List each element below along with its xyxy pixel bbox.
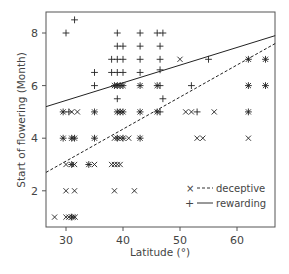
y-tick-label: 4 — [31, 132, 38, 145]
legend-rewarding-marker: + — [185, 197, 194, 210]
legend-rewarding-label: rewarding — [216, 198, 266, 209]
rewarding-point-plus-icon — [91, 82, 98, 89]
deceptive-point-x-icon — [212, 109, 217, 114]
deceptive-point-x-icon — [75, 109, 80, 114]
deceptive-point-x-icon — [200, 136, 205, 141]
deceptive-point-x-icon — [246, 136, 251, 141]
rewarding-point-plus-icon — [120, 56, 127, 63]
deceptive-point-x-icon — [92, 162, 97, 167]
deceptive-point-x-icon — [126, 136, 131, 141]
rewarding-point-plus-icon — [157, 56, 164, 63]
deceptive-point-x-icon — [52, 215, 57, 220]
rewarding-point-plus-icon — [188, 82, 195, 89]
rewarding-point-plus-icon — [114, 30, 121, 37]
rewarding-point-plus-icon — [160, 30, 167, 37]
rewarding-point-plus-icon — [157, 109, 164, 116]
deceptive-point-x-icon — [109, 162, 114, 167]
x-tick-label: 40 — [116, 234, 130, 247]
rewarding-point-plus-icon — [137, 43, 144, 50]
y-tick-label: 2 — [31, 185, 38, 198]
rewarding-point-plus-icon — [157, 43, 164, 50]
deceptive-point-x-icon — [72, 188, 77, 193]
rewarding-point-plus-icon — [160, 95, 167, 102]
x-axis-label: Latitude (°) — [130, 246, 190, 258]
deceptive-point-x-icon — [189, 109, 194, 114]
legend: × deceptive + rewarding — [185, 183, 266, 210]
rewarding-point-plus-icon — [120, 69, 127, 76]
deceptive-point-x-icon — [112, 162, 117, 167]
rewarding-point-plus-icon — [157, 82, 164, 89]
regression-lines — [46, 36, 275, 173]
rewarding-point-plus-icon — [65, 109, 72, 116]
x-tick-label: 30 — [59, 234, 73, 247]
rewarding-point-plus-icon — [91, 69, 98, 76]
deceptive-point-x-icon — [112, 188, 117, 193]
y-axis-ticks: 2468 — [31, 27, 46, 198]
deceptive-point-x-icon — [63, 188, 68, 193]
deceptive-point-x-icon — [195, 136, 200, 141]
deceptive-point-x-icon — [132, 188, 137, 193]
rewarding-point-plus-icon — [194, 109, 201, 116]
x-axis-ticks: 30405060 — [59, 227, 244, 247]
legend-deceptive-marker: × — [186, 183, 194, 194]
rewarding-point-plus-icon — [137, 30, 144, 37]
y-axis-label: Start of flowering (Month) — [15, 52, 27, 188]
deceptive-point-x-icon — [177, 57, 182, 62]
rewarding-point-plus-icon — [120, 43, 127, 50]
deceptive-point-x-icon — [63, 215, 68, 220]
rewarding-point-plus-icon — [63, 30, 70, 37]
deceptive-point-x-icon — [118, 162, 123, 167]
deceptive-point-x-icon — [115, 162, 120, 167]
y-tick-label: 8 — [31, 27, 38, 40]
deceptive-point-x-icon — [63, 162, 68, 167]
x-tick-label: 60 — [230, 234, 244, 247]
deceptive-point-x-icon — [183, 109, 188, 114]
deceptive-fit-line — [46, 44, 275, 173]
rewarding-point-plus-icon — [114, 95, 121, 102]
rewarding-point-plus-icon — [137, 69, 144, 76]
legend-deceptive-label: deceptive — [216, 183, 265, 194]
rewarding-point-plus-icon — [137, 56, 144, 63]
y-tick-label: 6 — [31, 80, 38, 93]
scatter-chart: 2468 30405060 × deceptive + rewarding La… — [0, 0, 289, 274]
rewarding-point-plus-icon — [71, 16, 78, 23]
